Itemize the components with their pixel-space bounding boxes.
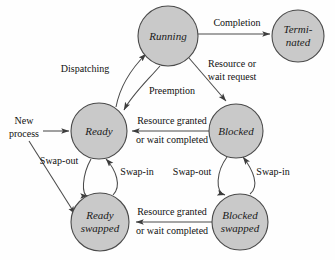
- node-ready-swapped[interactable]: Ready swapped: [71, 193, 129, 251]
- node-terminated-label: Termi-: [284, 23, 313, 35]
- edge-ready-to-ready-swapped: [83, 159, 91, 196]
- label-or-wait-completed-bottom: or wait completed: [136, 225, 208, 236]
- label-dispatching: Dispatching: [61, 63, 109, 74]
- label-completion: Completion: [213, 17, 260, 28]
- label-resource-or: Resource or: [208, 58, 257, 69]
- node-terminated-label2: nated: [286, 36, 311, 48]
- edge-blocked-swapped-to-blocked: [243, 157, 255, 194]
- node-ready-swapped-label2: swapped: [81, 222, 120, 234]
- node-blocked-swapped-label2: swapped: [221, 222, 260, 234]
- label-or-wait-completed-mid: or wait completed: [136, 134, 208, 145]
- node-blocked-label: Blocked: [218, 125, 254, 137]
- node-ready[interactable]: Ready: [71, 103, 127, 159]
- node-blocked-swapped-label: Blocked: [222, 209, 258, 221]
- label-new: New: [15, 115, 35, 126]
- process-state-diagram: Running Termi- nated Ready Blocked Ready…: [0, 0, 335, 260]
- edge-ready-swapped-to-ready: [106, 159, 117, 195]
- label-preemption: Preemption: [149, 85, 195, 96]
- node-running-label: Running: [148, 30, 187, 42]
- edge-blocked-to-blocked-swapped: [218, 157, 227, 195]
- diagram-canvas: Running Termi- nated Ready Blocked Ready…: [0, 0, 335, 260]
- node-ready-label: Ready: [84, 125, 113, 137]
- label-resource-granted-mid: Resource granted: [137, 115, 207, 126]
- label-resource-granted-bottom: Resource granted: [137, 206, 207, 217]
- label-process: process: [9, 128, 39, 139]
- edge-new-process-to-ready-swapped: [29, 141, 75, 214]
- node-blocked-swapped[interactable]: Blocked swapped: [212, 194, 268, 250]
- node-ready-swapped-label: Ready: [85, 209, 114, 221]
- node-blocked[interactable]: Blocked: [209, 104, 263, 158]
- node-terminated[interactable]: Termi- nated: [272, 10, 324, 62]
- label-swap-in-left: Swap-in: [120, 166, 153, 177]
- label-swap-out-right: Swap-out: [173, 166, 212, 177]
- label-swap-out-left: Swap-out: [40, 155, 79, 166]
- node-running[interactable]: Running: [138, 6, 198, 66]
- label-wait-request: wait request: [208, 71, 257, 82]
- label-swap-in-right: Swap-in: [256, 166, 289, 177]
